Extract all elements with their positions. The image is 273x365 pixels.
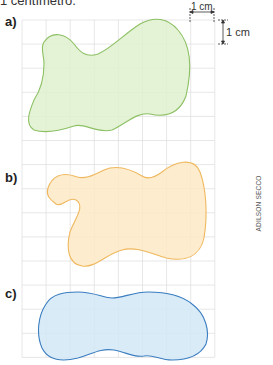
- figure-label-c: c): [5, 286, 17, 301]
- figure-label-b: b): [5, 170, 17, 185]
- shape-c: [39, 292, 208, 360]
- horizontal-scale-label: 1 cm: [191, 1, 213, 12]
- figure-label-a: a): [5, 14, 17, 29]
- shape-b: [47, 162, 206, 266]
- illustration-credit: ADILSON SECCO: [255, 174, 262, 234]
- shape-a: [29, 19, 190, 131]
- grid-figure-canvas: [0, 0, 273, 365]
- vertical-scale-label: 1 cm: [226, 26, 250, 38]
